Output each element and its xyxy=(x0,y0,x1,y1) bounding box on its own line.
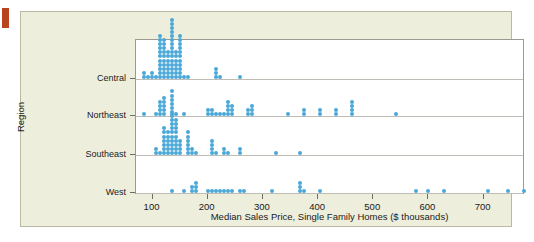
gridline-southeast xyxy=(136,155,523,156)
red-tab-marker xyxy=(2,8,9,28)
data-point xyxy=(210,139,214,143)
x-tick-mark xyxy=(483,194,484,199)
y-tick-mark xyxy=(130,115,135,116)
data-point xyxy=(178,147,182,151)
x-tick-mark xyxy=(207,194,208,199)
data-point xyxy=(250,104,254,108)
data-point xyxy=(170,98,174,102)
data-point xyxy=(350,100,354,104)
data-point xyxy=(414,189,418,193)
data-point xyxy=(230,189,234,193)
data-point xyxy=(334,108,338,112)
data-point xyxy=(250,108,254,112)
data-point xyxy=(142,71,146,75)
data-point xyxy=(302,112,306,116)
data-point xyxy=(298,185,302,189)
x-tick-mark xyxy=(317,194,318,199)
data-point xyxy=(186,135,190,139)
data-point xyxy=(178,54,182,58)
data-point xyxy=(182,112,186,116)
data-point xyxy=(186,75,190,79)
data-point xyxy=(162,108,166,112)
gridline-northeast xyxy=(136,116,523,117)
data-point xyxy=(162,42,166,46)
data-point xyxy=(178,42,182,46)
data-point xyxy=(178,151,182,155)
data-point xyxy=(170,30,174,34)
data-point xyxy=(210,143,214,147)
data-point xyxy=(170,189,174,193)
data-point xyxy=(194,185,198,189)
data-point xyxy=(162,112,166,116)
y-tick-label-central: Central xyxy=(21,73,126,83)
data-point xyxy=(286,112,290,116)
data-point xyxy=(302,189,306,193)
data-point xyxy=(250,112,254,116)
gridline-central xyxy=(136,79,523,80)
data-point xyxy=(162,96,166,100)
data-point xyxy=(170,38,174,42)
data-point xyxy=(318,108,322,112)
y-tick-label-southeast: Southeast xyxy=(21,149,126,159)
figure-panel: Region CentralNortheastSoutheastWest 100… xyxy=(20,11,512,227)
data-point xyxy=(238,75,242,79)
data-point xyxy=(230,104,234,108)
x-tick-mark xyxy=(372,194,373,199)
data-point xyxy=(186,130,190,134)
data-point xyxy=(170,18,174,22)
data-point xyxy=(486,189,490,193)
data-point xyxy=(210,108,214,112)
data-point xyxy=(222,147,226,151)
data-point xyxy=(178,34,182,38)
data-point xyxy=(154,147,158,151)
data-point xyxy=(170,114,174,118)
data-point xyxy=(178,143,182,147)
x-tick-mark xyxy=(262,194,263,199)
data-point xyxy=(238,147,242,151)
data-point xyxy=(506,189,510,193)
gridline-west xyxy=(136,193,523,194)
data-point xyxy=(170,42,174,46)
data-point xyxy=(170,26,174,30)
data-point xyxy=(170,89,174,93)
data-point xyxy=(170,94,174,98)
data-point xyxy=(170,106,174,110)
data-point xyxy=(170,110,174,114)
data-point xyxy=(170,34,174,38)
data-point xyxy=(242,189,246,193)
data-point xyxy=(214,67,218,71)
data-point xyxy=(350,104,354,108)
x-tick-mark xyxy=(152,194,153,199)
figure-root: Region CentralNortheastSoutheastWest 100… xyxy=(0,0,534,242)
data-point xyxy=(158,34,162,38)
data-point xyxy=(178,67,182,71)
data-point xyxy=(442,189,446,193)
data-point xyxy=(186,139,190,143)
data-point xyxy=(318,189,322,193)
data-point xyxy=(394,112,398,116)
data-point xyxy=(210,147,214,151)
data-point xyxy=(230,108,234,112)
data-point xyxy=(150,71,154,75)
data-point xyxy=(298,151,302,155)
data-point xyxy=(226,100,230,104)
data-point xyxy=(350,108,354,112)
data-point xyxy=(318,112,322,116)
data-point xyxy=(426,189,430,193)
data-point xyxy=(174,130,178,134)
data-point xyxy=(194,189,198,193)
data-point xyxy=(174,118,178,122)
y-tick-label-west: West xyxy=(21,187,126,197)
data-point xyxy=(186,143,190,147)
data-point xyxy=(226,151,230,155)
data-point xyxy=(162,38,166,42)
x-axis-title: Median Sales Price, Single Family Homes … xyxy=(135,211,524,222)
data-point xyxy=(350,112,354,116)
data-point xyxy=(302,108,306,112)
data-point xyxy=(274,151,278,155)
data-point xyxy=(170,102,174,106)
data-point xyxy=(522,189,526,193)
data-point xyxy=(142,112,146,116)
data-point xyxy=(162,104,166,108)
x-tick-mark xyxy=(427,194,428,199)
